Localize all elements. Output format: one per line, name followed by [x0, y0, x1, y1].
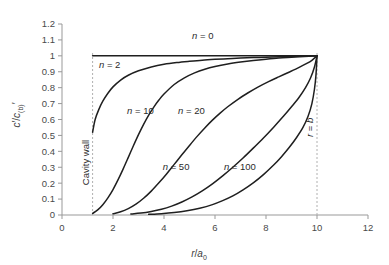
y-tick-label: 0.9 [42, 66, 55, 77]
curve-label-text: n = 2 [99, 59, 120, 70]
y-tick-label: 0 [50, 209, 55, 220]
curve-label-text: n = 20 [178, 105, 205, 116]
curve-label-n-20: n = 20 [178, 105, 205, 116]
curve-label-text: n = 50 [163, 161, 190, 172]
concentration-profile-chart: 00.10.20.30.40.50.60.70.80.911.11.2 0246… [0, 0, 389, 265]
y-tick-label: 1.2 [42, 18, 55, 29]
y-tick-label: 0.4 [42, 146, 55, 157]
x-tick-label: 6 [212, 222, 217, 233]
x-tick-label: 10 [312, 222, 323, 233]
y-tick-label: 0.7 [42, 98, 55, 109]
chart-figure: 00.10.20.30.40.50.60.70.80.911.11.2 0246… [0, 0, 389, 265]
y-tick-label: 0.2 [42, 178, 55, 189]
y-tick-label: 0.5 [42, 130, 55, 141]
curve-label-n-0: n = 0 [192, 30, 213, 41]
cavity-wall-annotation: Cavity wall [80, 140, 91, 185]
y-tick-label: 0.8 [42, 82, 55, 93]
curve-label-n-10: n = 10 [127, 105, 154, 116]
y-tick-label: 1.1 [42, 34, 55, 45]
y-tick-label: 0.6 [42, 114, 55, 125]
curve-label-n-100: n = 100 [224, 161, 256, 172]
curve-label-n-50: n = 50 [163, 161, 190, 172]
y-tick-label: 1 [50, 50, 55, 61]
curve-label-n-2: n = 2 [99, 59, 120, 70]
curve-label-text: n = 100 [224, 161, 256, 172]
x-tick-label: 0 [59, 222, 64, 233]
y-tick-label: 0.3 [42, 162, 55, 173]
y-tick-label: 0.1 [42, 193, 55, 204]
x-tick-label: 12 [363, 222, 374, 233]
outer-boundary-annotation: r = b [304, 118, 315, 137]
curve-label-text: n = 10 [127, 105, 154, 116]
curve-label-text: n = 0 [192, 30, 213, 41]
x-tick-label: 8 [263, 222, 268, 233]
x-tick-label: 4 [161, 222, 166, 233]
x-tick-label: 2 [110, 222, 115, 233]
